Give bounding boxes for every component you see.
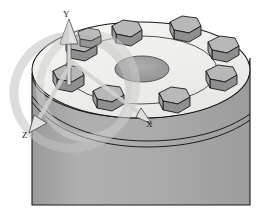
viewport-3d[interactable]: Y X Z bbox=[0, 0, 265, 215]
hex-boss[interactable] bbox=[170, 16, 201, 42]
triad-origin-handle[interactable] bbox=[78, 28, 101, 48]
axis-label-y: Y bbox=[63, 10, 70, 19]
scene-canvas[interactable] bbox=[0, 0, 265, 215]
hex-boss[interactable] bbox=[208, 36, 239, 62]
hex-boss[interactable] bbox=[159, 87, 190, 113]
axis-label-x: X bbox=[146, 120, 153, 129]
hex-boss[interactable] bbox=[206, 65, 237, 91]
axis-label-z: Z bbox=[22, 131, 28, 140]
